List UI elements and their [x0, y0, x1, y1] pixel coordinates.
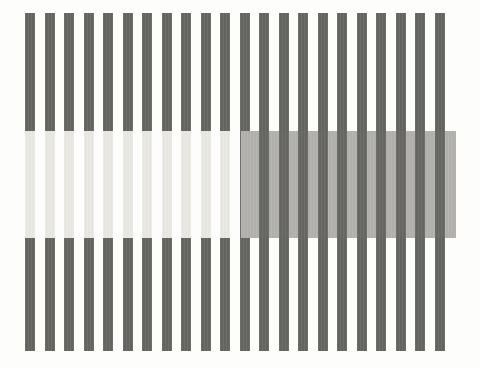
grating-figure [25, 13, 456, 351]
illusion-canvas [0, 0, 480, 368]
light-test-patch [123, 131, 133, 238]
light-test-patch [220, 131, 230, 238]
light-test-patch [25, 131, 35, 238]
light-test-patch [84, 131, 94, 238]
light-test-band [25, 13, 456, 351]
light-test-patch [162, 131, 172, 238]
light-test-patch [103, 131, 113, 238]
light-test-patch [142, 131, 152, 238]
light-test-patch [45, 131, 55, 238]
light-test-patch [201, 131, 211, 238]
light-test-patch [64, 131, 74, 238]
light-test-patch [181, 131, 191, 238]
